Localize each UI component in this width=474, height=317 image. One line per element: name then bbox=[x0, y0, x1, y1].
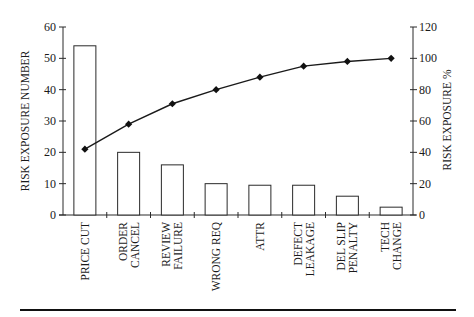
bar bbox=[380, 207, 402, 215]
left-y-axis: 0102030405060 bbox=[44, 20, 66, 222]
category-label: WRONG REQ bbox=[210, 221, 222, 291]
category-label: FAILURE bbox=[172, 222, 184, 270]
left-tick-label: 30 bbox=[44, 114, 56, 128]
bar bbox=[293, 185, 315, 215]
left-tick-label: 40 bbox=[44, 83, 56, 97]
right-y-axis: 020406080100120 bbox=[410, 20, 437, 222]
category-label: CANCEL bbox=[129, 222, 141, 268]
category-label: ORDER bbox=[117, 222, 129, 261]
category-label: LEAKAGE bbox=[304, 222, 316, 276]
diamond-marker bbox=[300, 63, 307, 70]
left-tick-label: 10 bbox=[44, 177, 56, 191]
right-tick-label: 20 bbox=[419, 177, 431, 191]
right-tick-label: 60 bbox=[419, 114, 431, 128]
left-tick-label: 50 bbox=[44, 51, 56, 65]
right-tick-label: 80 bbox=[419, 83, 431, 97]
bar bbox=[161, 165, 183, 215]
diamond-marker bbox=[125, 121, 132, 128]
diamond-marker bbox=[388, 55, 395, 62]
diamond-marker bbox=[213, 86, 220, 93]
bottom-divider-rule bbox=[20, 309, 456, 311]
diamond-marker bbox=[344, 58, 351, 65]
pareto-chart: 0102030405060 020406080100120 PRICE CUTO… bbox=[0, 0, 474, 317]
right-tick-label: 0 bbox=[419, 208, 425, 222]
right-axis-title: RISK EXPOSURE % bbox=[441, 69, 453, 170]
cumulative-line-series bbox=[81, 55, 394, 153]
left-tick-label: 20 bbox=[44, 145, 56, 159]
bar bbox=[205, 184, 227, 215]
category-label: DEFECT bbox=[292, 222, 304, 265]
category-label: REVIEW bbox=[160, 222, 172, 267]
bar bbox=[118, 152, 140, 215]
bar bbox=[249, 185, 271, 215]
right-tick-label: 100 bbox=[419, 51, 437, 65]
category-label: ATTR bbox=[254, 222, 266, 251]
right-tick-label: 120 bbox=[419, 20, 437, 34]
category-label: PRICE CUT bbox=[79, 222, 91, 280]
category-label: TECH bbox=[379, 222, 391, 252]
bar bbox=[336, 196, 358, 215]
bar bbox=[74, 46, 96, 215]
category-label: PENALTY bbox=[347, 221, 359, 273]
category-label: CHANGE bbox=[391, 222, 403, 270]
bar-series bbox=[74, 46, 402, 215]
diamond-marker bbox=[169, 100, 176, 107]
diamond-marker bbox=[256, 74, 263, 81]
left-tick-label: 60 bbox=[44, 20, 56, 34]
x-tick-labels: PRICE CUTORDERCANCELREVIEWFAILUREWRONG R… bbox=[79, 221, 403, 291]
x-axis bbox=[59, 212, 416, 218]
category-label: DEL SLIP bbox=[335, 222, 347, 270]
right-tick-label: 40 bbox=[419, 145, 431, 159]
left-tick-label: 0 bbox=[50, 208, 56, 222]
left-axis-title: RISK EXPOSURE NUMBER bbox=[19, 50, 31, 191]
